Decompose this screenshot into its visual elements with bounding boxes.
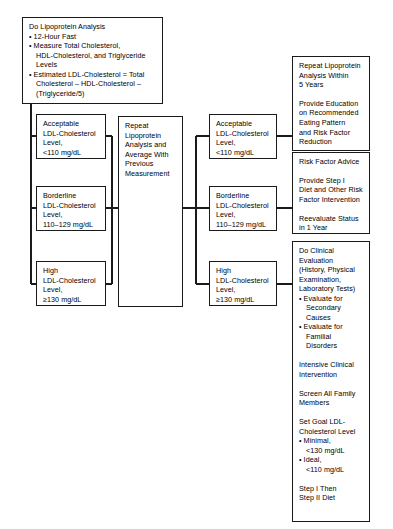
- node-text-line: <110 mg/dL: [216, 148, 271, 158]
- node-mid-high-ldl: HighLDL-CholesterolLevel,≥130 mg/dL: [209, 261, 277, 306]
- node-text-line: Acceptable: [43, 119, 100, 129]
- node-text-line: LDL-Cholesterol: [43, 129, 100, 139]
- node-text-line: <110 mg/dL: [43, 148, 100, 158]
- node-left-acceptable-ldl: AcceptableLDL-CholesterolLevel,<110 mg/d…: [36, 114, 106, 159]
- node-text-line: Set Goal LDL-: [299, 417, 364, 427]
- node-outcome-repeat-within-5-years: Repeat LipoproteinAnalysis Within5 Years…: [292, 56, 370, 151]
- node-text-line: Intervention: [299, 370, 364, 380]
- node-text-line: Do Clinical: [299, 246, 364, 256]
- bullet-continuation-line: Causes: [299, 313, 364, 323]
- bullet-line: • 12-Hour Fast: [29, 32, 157, 42]
- node-text-line: Level,: [43, 285, 100, 295]
- node-text-line: Step I Then: [299, 484, 364, 494]
- node-text-line: Lipoprotein: [125, 131, 177, 141]
- node-text-line: Evaluation: [299, 256, 364, 266]
- node-text-line: High: [43, 266, 100, 276]
- node-text-line: Cholesterol Level: [299, 427, 364, 437]
- node-heading-line: Do Lipoprotein Analysis: [29, 22, 157, 32]
- node-text-line: Step II Diet: [299, 493, 364, 503]
- node-text-line: LDL-Cholesterol: [43, 276, 100, 286]
- node-text-line: Analysis and: [125, 140, 177, 150]
- node-do-lipoprotein-analysis: Do Lipoprotein Analysis• 12-Hour Fast• M…: [22, 17, 163, 104]
- node-text-line: Average With: [125, 150, 177, 160]
- node-text-block: Repeat LipoproteinAnalysis Within5 Years…: [293, 57, 369, 150]
- bullet-continuation-line: Levels: [29, 60, 157, 70]
- node-text-line: Measurement: [125, 169, 177, 179]
- node-text-line: LDL-Cholesterol: [216, 129, 271, 139]
- node-text-block: HighLDL-CholesterolLevel,≥130 mg/dL: [210, 262, 276, 306]
- node-left-high-ldl: HighLDL-CholesterolLevel,≥130 mg/dL: [36, 261, 106, 306]
- node-text-block: HighLDL-CholesterolLevel,≥130 mg/dL: [37, 262, 105, 306]
- node-text-line: Previous: [125, 159, 177, 169]
- node-text-line: Level,: [216, 138, 271, 148]
- bullet-continuation-line: <110 mg/dL: [299, 465, 364, 475]
- node-text-line: Reevaluate Status: [299, 214, 364, 224]
- bullet-line: • Evaluate for: [299, 322, 364, 332]
- node-text-line: Level,: [43, 210, 100, 220]
- node-repeat-lipoprotein-analysis: RepeatLipoproteinAnalysis andAverage Wit…: [118, 116, 183, 307]
- node-text-line: Risk Factor Advice: [299, 157, 364, 167]
- node-text-line: Provide Step I: [299, 176, 364, 186]
- node-text-line: 5 Years: [299, 80, 364, 90]
- node-text-line: ≥130 mg/dL: [43, 295, 100, 305]
- node-text-line: Analysis Within: [299, 71, 364, 81]
- node-text-line: 110–129 mg/dL: [43, 220, 100, 230]
- bullet-continuation-line: (Triglyceride/5): [29, 89, 157, 99]
- node-text-block: BorderlineLDL-CholesterolLevel,110–129 m…: [37, 187, 105, 231]
- text-spacer: [299, 204, 364, 213]
- node-text-line: Level,: [216, 210, 271, 220]
- node-text-line: Borderline: [43, 191, 100, 201]
- bullet-continuation-line: Secondary: [299, 303, 364, 313]
- node-text-line: LDL-Cholesterol: [43, 201, 100, 211]
- flowchart-canvas: Do Lipoprotein Analysis• 12-Hour Fast• M…: [0, 0, 393, 529]
- node-text-line: on Recommended: [299, 108, 364, 118]
- node-text-line: Level,: [216, 285, 271, 295]
- node-text-line: LDL-Cholesterol: [216, 276, 271, 286]
- bullet-line: • Minimal,: [299, 436, 364, 446]
- node-text-line: Diet and Other Risk: [299, 185, 364, 195]
- node-text-line: Borderline: [216, 191, 271, 201]
- node-text-block: Risk Factor AdviceProvide Step IDiet and…: [293, 153, 369, 234]
- bullet-continuation-line: <130 mg/dL: [299, 446, 364, 456]
- bullet-line: • Ideal,: [299, 455, 364, 465]
- node-text-block: Do ClinicalEvaluation(History, PhysicalE…: [293, 242, 369, 506]
- node-text-block: RepeatLipoproteinAnalysis andAverage Wit…: [119, 117, 182, 181]
- text-spacer: [299, 474, 364, 483]
- node-text-line: Acceptable: [216, 119, 271, 129]
- node-text-block: BorderlineLDL-CholesterolLevel,110–129 m…: [210, 187, 276, 231]
- bullet-continuation-line: HDL-Cholesterol, and Triglyceride: [29, 51, 157, 61]
- node-mid-borderline-ldl: BorderlineLDL-CholesterolLevel,110–129 m…: [209, 186, 277, 231]
- text-spacer: [299, 379, 364, 388]
- node-text-block: AcceptableLDL-CholesterolLevel,<110 mg/d…: [37, 115, 105, 159]
- bullet-continuation-line: Cholesterol – HDL-Cholesterol –: [29, 79, 157, 89]
- node-text-block: Do Lipoprotein Analysis• 12-Hour Fast• M…: [23, 18, 162, 101]
- node-text-line: LDL-Cholesterol: [216, 201, 271, 211]
- node-text-line: Repeat: [125, 121, 177, 131]
- node-text-line: Examination,: [299, 275, 364, 285]
- node-left-borderline-ldl: BorderlineLDL-CholesterolLevel,110–129 m…: [36, 186, 106, 231]
- node-text-line: Repeat Lipoprotein: [299, 61, 364, 71]
- bullet-continuation-line: Disorders: [299, 341, 364, 351]
- node-text-line: Laboratory Tests): [299, 284, 364, 294]
- node-text-line: (History, Physical: [299, 265, 364, 275]
- text-spacer: [299, 167, 364, 176]
- node-text-line: Factor Intervention: [299, 195, 364, 205]
- bullet-line: • Evaluate for: [299, 294, 364, 304]
- node-text-line: ≥130 mg/dL: [216, 295, 271, 305]
- node-text-line: and Risk Factor: [299, 128, 364, 138]
- node-text-line: 110–129 mg/dL: [216, 220, 271, 230]
- node-text-line: Provide Education: [299, 99, 364, 109]
- bullet-line: • Estimated LDL-Cholesterol = Total: [29, 70, 157, 80]
- text-spacer: [299, 408, 364, 417]
- bullet-line: • Measure Total Cholesterol,: [29, 41, 157, 51]
- node-text-block: AcceptableLDL-CholesterolLevel,<110 mg/d…: [210, 115, 276, 159]
- node-text-line: Eating Pattern: [299, 118, 364, 128]
- text-spacer: [299, 351, 364, 360]
- text-spacer: [299, 90, 364, 99]
- node-text-line: Reduction: [299, 137, 364, 147]
- node-text-line: Screen All Family: [299, 389, 364, 399]
- node-text-line: Members: [299, 398, 364, 408]
- node-text-line: Level,: [43, 138, 100, 148]
- node-outcome-do-clinical-evaluation: Do ClinicalEvaluation(History, PhysicalE…: [292, 241, 370, 522]
- node-text-line: High: [216, 266, 271, 276]
